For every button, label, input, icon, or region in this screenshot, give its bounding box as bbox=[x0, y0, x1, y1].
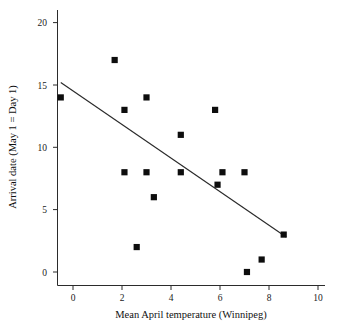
y-axis-title: Arrival date (May 1 = Day 1) bbox=[7, 85, 19, 209]
x-tick-label: 6 bbox=[218, 293, 223, 303]
data-point bbox=[151, 194, 157, 200]
data-point bbox=[259, 256, 265, 262]
y-tick-label: 10 bbox=[38, 143, 48, 153]
data-point bbox=[112, 57, 118, 63]
data-point bbox=[214, 182, 220, 188]
data-point bbox=[178, 132, 184, 138]
data-point bbox=[241, 169, 247, 175]
x-tick-label: 0 bbox=[71, 293, 76, 303]
scatter-plot-figure: 0 5 10 15 20 0 2 4 6 8 10 Mean Apri bbox=[0, 0, 340, 330]
y-tick-label: 15 bbox=[38, 81, 48, 91]
data-point bbox=[219, 169, 225, 175]
data-point bbox=[244, 269, 250, 275]
plot-canvas: 0 5 10 15 20 0 2 4 6 8 10 Mean Apri bbox=[0, 0, 340, 330]
data-point bbox=[121, 107, 127, 113]
data-point bbox=[143, 169, 149, 175]
data-point bbox=[143, 94, 149, 100]
y-tick-label: 0 bbox=[42, 268, 47, 278]
data-point bbox=[121, 169, 127, 175]
data-point bbox=[178, 169, 184, 175]
x-tick-label: 8 bbox=[267, 293, 272, 303]
data-point bbox=[281, 231, 287, 237]
x-axis-tick-labels: 0 2 4 6 8 10 bbox=[71, 293, 323, 303]
x-tick-label: 4 bbox=[169, 293, 174, 303]
data-point bbox=[212, 107, 218, 113]
y-tick-label: 5 bbox=[42, 205, 47, 215]
y-axis-ticks bbox=[53, 23, 58, 272]
x-tick-label: 2 bbox=[120, 293, 125, 303]
x-axis-ticks bbox=[73, 286, 318, 291]
y-tick-label: 20 bbox=[38, 18, 48, 28]
regression-trend-line bbox=[61, 82, 286, 237]
data-point bbox=[58, 94, 64, 100]
y-axis-tick-labels: 0 5 10 15 20 bbox=[38, 18, 48, 277]
x-axis-title: Mean April temperature (Winnipeg) bbox=[115, 309, 267, 321]
data-point bbox=[134, 244, 140, 250]
data-point-group bbox=[58, 57, 287, 275]
x-tick-label: 10 bbox=[313, 293, 323, 303]
